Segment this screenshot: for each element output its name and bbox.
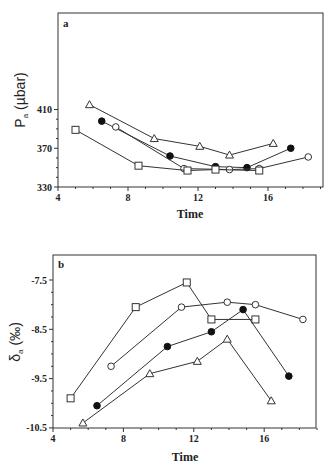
open-square-marker: [184, 167, 191, 174]
open-triangle-marker: [269, 139, 277, 146]
panel-b: b 481216-7.5-8.5-9.5-10.5 Time δa(‰): [7, 255, 317, 464]
panel-b-axes: 481216-7.5-8.5-9.5-10.5: [26, 275, 317, 445]
panel-a-label: a: [63, 17, 69, 29]
open-circle-marker: [178, 304, 185, 311]
svg-text:Pa(µbar): Pa(µbar): [12, 72, 30, 127]
filled-circle-marker: [208, 328, 215, 335]
y-tick-label: 330: [37, 182, 52, 193]
x-tick-label: 16: [263, 192, 273, 203]
open-circle-marker: [300, 316, 307, 323]
open-triangle-marker: [150, 135, 158, 142]
y-tick-label: 370: [37, 143, 52, 154]
series-line: [111, 302, 303, 366]
x-tick-label: 12: [193, 192, 203, 203]
series-line: [76, 130, 260, 171]
y-label-unit: (µbar): [12, 72, 28, 110]
y-tick-label: -8.5: [31, 324, 47, 335]
open-square-marker: [212, 166, 219, 173]
x-tick-label: 8: [121, 433, 126, 444]
panel-a: a 481216330370410 Time Pa(µbar): [12, 13, 323, 221]
open-circle-marker: [108, 363, 115, 370]
open-square-marker: [208, 316, 215, 323]
x-tick-label: 4: [51, 433, 56, 444]
svg-text:δa(‰): δa(‰): [7, 322, 25, 362]
y-label-sub: a: [16, 349, 25, 354]
filled-circle-marker: [286, 373, 293, 380]
figure: a 481216330370410 Time Pa(µbar) b 481216…: [0, 0, 332, 469]
filled-circle-marker: [164, 343, 171, 350]
x-tick-label: 4: [56, 192, 61, 203]
filled-circle-marker: [94, 402, 101, 409]
y-tick-label: -9.5: [31, 373, 47, 384]
open-square-marker: [132, 304, 139, 311]
y-tick-label: -10.5: [26, 422, 47, 433]
open-triangle-marker: [86, 101, 94, 108]
x-tick-label: 12: [189, 433, 199, 444]
panel-a-x-axis-label: Time: [177, 207, 204, 221]
filled-circle-marker: [287, 145, 294, 152]
series-open-triangle: [79, 335, 275, 426]
open-square-marker: [72, 126, 79, 133]
panel-b-x-axis-label: Time: [172, 450, 199, 464]
open-square-marker: [256, 167, 263, 174]
open-square-marker: [67, 395, 74, 402]
open-triangle-marker: [223, 335, 231, 342]
filled-circle-marker: [98, 118, 105, 125]
series-filled-circle: [98, 118, 294, 171]
y-label-main: P: [12, 118, 28, 127]
panel-a-y-axis-label: Pa(µbar): [12, 72, 30, 127]
panel-b-series: [67, 279, 306, 426]
panel-b-label: b: [58, 258, 64, 270]
open-circle-marker: [112, 124, 119, 131]
x-tick-label: 8: [126, 192, 131, 203]
filled-circle-marker: [240, 306, 247, 313]
open-square-marker: [135, 162, 142, 169]
open-triangle-marker: [79, 419, 87, 426]
y-label-main: δ: [7, 354, 23, 362]
open-circle-marker: [224, 299, 231, 306]
y-tick-label: 410: [37, 104, 52, 115]
open-circle-marker: [305, 154, 312, 161]
x-tick-label: 16: [259, 433, 269, 444]
panel-b-y-axis-label: δa(‰): [7, 322, 25, 362]
panel-a-series: [72, 101, 312, 174]
y-label-unit: (‰): [7, 322, 23, 345]
open-triangle-marker: [267, 397, 275, 404]
open-triangle-marker: [193, 357, 201, 364]
y-tick-label: -7.5: [31, 275, 47, 286]
open-square-marker: [252, 316, 259, 323]
open-circle-marker: [252, 301, 259, 308]
series-line: [83, 339, 271, 423]
open-square-marker: [183, 279, 190, 286]
y-label-sub: a: [21, 113, 30, 118]
